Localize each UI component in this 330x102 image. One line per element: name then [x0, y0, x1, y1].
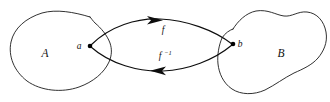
point-b-label: b	[238, 39, 243, 49]
inverse-arrow-curve	[91, 45, 232, 71]
point-a-label: a	[77, 41, 82, 51]
diagram-canvas: A B a b f f −1	[0, 0, 330, 102]
forward-arrow-head	[147, 16, 163, 25]
point-a-dot	[88, 44, 93, 49]
set-b-label: B	[277, 47, 284, 59]
set-a-label: A	[40, 47, 49, 59]
set-b-outline	[218, 11, 327, 94]
function-inverse-diagram: A B a b f f −1	[0, 0, 330, 102]
inverse-map-label-base: f	[159, 51, 163, 61]
inverse-map-label: f −1	[159, 49, 172, 62]
forward-map-label: f	[162, 25, 166, 35]
inverse-map-label-superscript: −1	[164, 49, 172, 56]
point-b-dot	[231, 42, 236, 47]
